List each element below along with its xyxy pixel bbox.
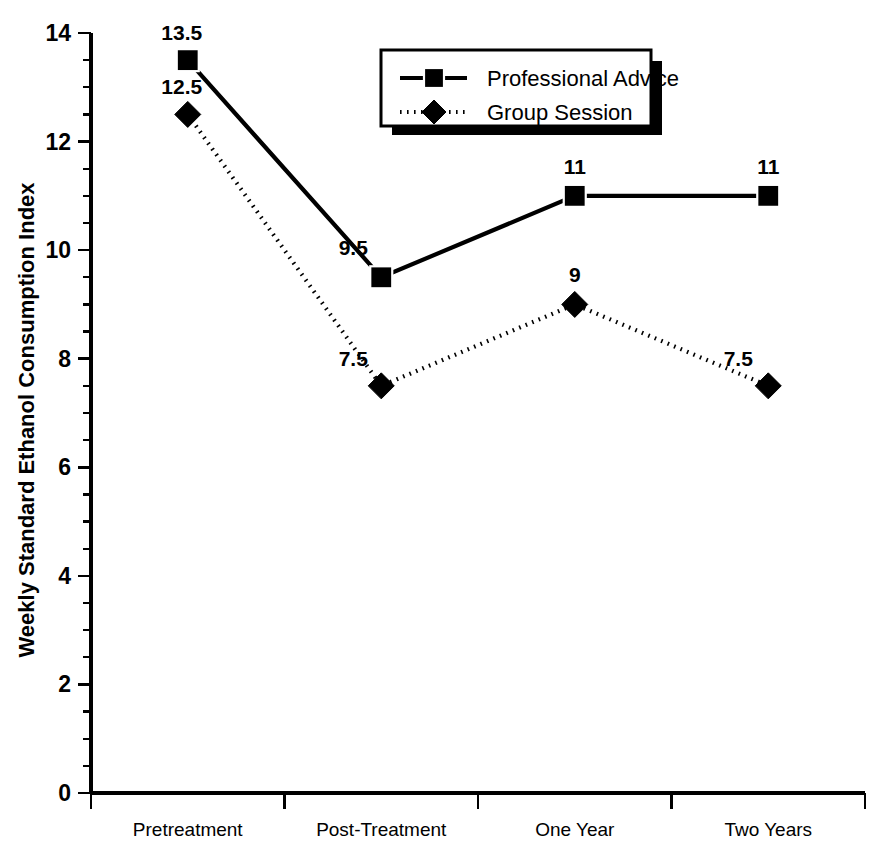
chart-container: Weekly Standard Ethanol Consumption Inde…: [0, 0, 887, 846]
y-tick-label: 6: [58, 454, 71, 480]
y-tick-label: 2: [58, 671, 71, 697]
data-point-label: 11: [564, 155, 587, 178]
legend: Professional Advice Group Session: [381, 50, 679, 135]
legend-label-professional-advice: Professional Advice: [487, 66, 679, 91]
data-point-label: 13.5: [161, 21, 202, 44]
data-point-label: 9.5: [339, 236, 369, 259]
x-category-label: Post-Treatment: [316, 819, 447, 840]
legend-label-group-session: Group Session: [487, 100, 633, 125]
x-axis-category-labels: PretreatmentPost-TreatmentOne YearTwo Ye…: [133, 819, 812, 840]
y-tick-label: 0: [58, 780, 71, 806]
data-point-marker: [177, 49, 199, 71]
y-tick-label: 12: [45, 129, 71, 155]
y-tick-label: 10: [45, 237, 71, 263]
x-category-label: Two Years: [724, 819, 812, 840]
y-tick-label: 8: [58, 346, 71, 372]
y-axis-tick-labels: 02468101214: [45, 20, 71, 806]
y-axis-ticks: [78, 33, 91, 793]
square-marker: [424, 68, 444, 88]
data-point-marker: [370, 266, 392, 288]
x-category-label: Pretreatment: [133, 819, 244, 840]
data-point-marker: [175, 101, 201, 127]
data-point-label: 7.5: [339, 347, 369, 370]
data-point-label: 7.5: [724, 347, 754, 370]
x-axis-ticks: [91, 793, 865, 809]
data-point-label: 11: [757, 155, 780, 178]
line-chart: Weekly Standard Ethanol Consumption Inde…: [0, 0, 887, 846]
data-point-marker: [757, 185, 779, 207]
data-point-marker: [368, 373, 394, 399]
data-point-marker: [564, 185, 586, 207]
y-axis-title: Weekly Standard Ethanol Consumption Inde…: [14, 182, 39, 658]
y-tick-label: 4: [58, 563, 71, 589]
y-tick-label: 14: [45, 20, 71, 46]
legend-entry-professional-advice[interactable]: Professional Advice: [400, 66, 679, 91]
x-category-label: One Year: [535, 819, 615, 840]
data-point-label: 9: [569, 263, 581, 286]
legend-entry-group-session[interactable]: Group Session: [400, 100, 633, 125]
data-point-marker: [755, 373, 781, 399]
data-point-marker: [562, 291, 588, 317]
data-point-label: 12.5: [161, 75, 202, 98]
